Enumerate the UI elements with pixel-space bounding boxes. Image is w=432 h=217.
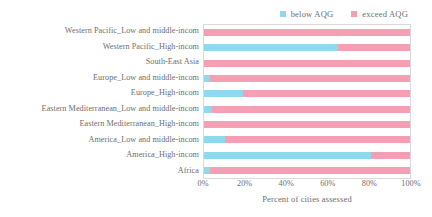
legend-swatch-exceed-aqg xyxy=(351,11,357,17)
bar-row xyxy=(204,40,410,55)
stacked-bar xyxy=(204,121,410,128)
y-axis-category-labels: Western Pacific_Low and middle-incomWest… xyxy=(0,24,203,179)
y-axis-label: Europe_Low and middle-incom xyxy=(0,71,203,87)
stacked-bar-chart: Western Pacific_Low and middle-incomWest… xyxy=(0,24,432,179)
y-axis-label: America_High-incom xyxy=(0,148,203,164)
y-axis-label: America_Low and middle-incom xyxy=(0,133,203,149)
x-axis-tick: 100% xyxy=(391,179,431,188)
bar-segment-exceed-aqg xyxy=(243,90,410,97)
stacked-bar xyxy=(204,152,410,159)
y-axis-label: Africa xyxy=(0,164,203,180)
bar-segment-exceed-aqg xyxy=(338,44,410,51)
x-axis-tick: 80% xyxy=(349,179,389,188)
bar-series-container xyxy=(204,25,410,178)
bar-row xyxy=(204,25,410,40)
plot-area xyxy=(203,24,411,179)
legend-item-below-aqg: below AQG xyxy=(280,10,334,19)
bar-segment-exceed-aqg xyxy=(212,106,410,113)
stacked-bar xyxy=(204,106,410,113)
stacked-bar xyxy=(204,44,410,51)
x-axis-title: Percent of cities assessed xyxy=(203,194,411,204)
bar-row xyxy=(204,147,410,162)
x-axis-tick: 40% xyxy=(266,179,306,188)
bar-row xyxy=(204,86,410,101)
y-axis-label: South-East Asia xyxy=(0,55,203,71)
x-axis-tick-labels: 0%20%40%60%80%100% xyxy=(203,179,411,193)
bar-segment-below-aqg xyxy=(204,106,212,113)
y-axis-label: Europe_High-incom xyxy=(0,86,203,102)
bar-row xyxy=(204,101,410,116)
bar-segment-below-aqg xyxy=(204,152,371,159)
stacked-bar xyxy=(204,136,410,143)
bar-segment-exceed-aqg xyxy=(204,60,410,67)
stacked-bar xyxy=(204,60,410,67)
x-axis-tick: 60% xyxy=(308,179,348,188)
bar-row xyxy=(204,163,410,178)
legend-swatch-below-aqg xyxy=(280,11,286,17)
x-axis-tick: 20% xyxy=(225,179,265,188)
x-axis-tick: 0% xyxy=(183,179,223,188)
stacked-bar xyxy=(204,90,410,97)
bar-segment-exceed-aqg xyxy=(210,75,410,82)
bar-segment-below-aqg xyxy=(204,44,338,51)
stacked-bar xyxy=(204,167,410,174)
chart-legend: below AQG exceed AQG xyxy=(0,6,432,22)
bar-segment-exceed-aqg xyxy=(371,152,410,159)
bar-row xyxy=(204,117,410,132)
y-axis-label: Western Pacific_Low and middle-incom xyxy=(0,24,203,40)
bar-segment-below-aqg xyxy=(204,90,243,97)
bar-row xyxy=(204,132,410,147)
y-axis-label: Eastern Mediterranean_Low and middle-inc… xyxy=(0,102,203,118)
y-axis-label: Eastern Mediterranean_High-incom xyxy=(0,117,203,133)
bar-row xyxy=(204,56,410,71)
stacked-bar xyxy=(204,75,410,82)
bar-row xyxy=(204,71,410,86)
bar-segment-exceed-aqg xyxy=(204,121,410,128)
stacked-bar xyxy=(204,29,410,36)
legend-label-below-aqg: below AQG xyxy=(291,10,334,19)
bar-segment-exceed-aqg xyxy=(225,136,410,143)
bar-segment-exceed-aqg xyxy=(204,29,410,36)
bar-segment-exceed-aqg xyxy=(210,167,410,174)
bar-segment-below-aqg xyxy=(204,136,225,143)
legend-item-exceed-aqg: exceed AQG xyxy=(351,10,408,19)
y-axis-label: Western Pacific_High-incom xyxy=(0,40,203,56)
legend-label-exceed-aqg: exceed AQG xyxy=(362,10,408,19)
